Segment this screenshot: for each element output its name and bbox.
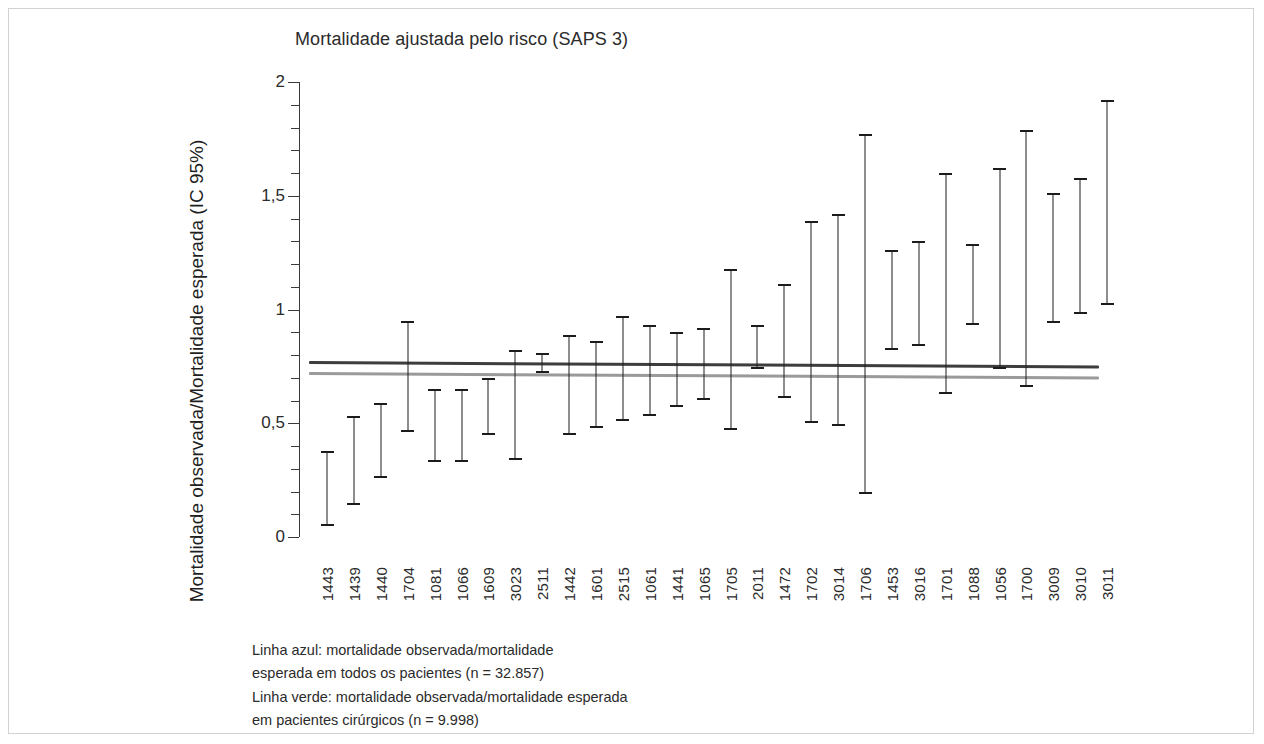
errorbar-cap-lower bbox=[509, 458, 522, 460]
errorbar bbox=[918, 241, 919, 346]
errorbar-cap-lower bbox=[859, 492, 872, 494]
errorbar bbox=[838, 214, 839, 426]
y-axis-minor-tick bbox=[291, 105, 299, 106]
errorbar-cap-upper bbox=[1047, 193, 1060, 195]
errorbar-cap-lower bbox=[536, 371, 549, 373]
x-axis-tick-label: 1704 bbox=[400, 567, 417, 601]
y-axis-tick-label: 1 bbox=[276, 300, 285, 320]
y-axis-major-tick bbox=[288, 196, 299, 197]
errorbar-cap-lower bbox=[1074, 312, 1087, 314]
y-axis-minor-tick bbox=[291, 514, 299, 515]
errorbar-cap-lower bbox=[321, 524, 334, 526]
errorbar bbox=[757, 325, 758, 368]
errorbar bbox=[703, 328, 704, 401]
errorbar bbox=[407, 321, 408, 432]
legend-note: Linha azul: mortalidade observada/mortal… bbox=[252, 639, 628, 733]
x-axis-tick-label: 1066 bbox=[454, 567, 471, 601]
x-axis-tick-label: 1705 bbox=[723, 567, 740, 601]
errorbar-cap-upper bbox=[455, 389, 468, 391]
x-axis-tick-label: 1088 bbox=[965, 567, 982, 601]
errorbar-cap-upper bbox=[778, 284, 791, 286]
errorbar-cap-lower bbox=[1101, 303, 1114, 305]
x-axis-tick-label: 1441 bbox=[669, 567, 686, 601]
errorbar-cap-upper bbox=[643, 325, 656, 327]
y-axis-major-tick bbox=[288, 423, 299, 424]
errorbar-cap-upper bbox=[724, 269, 737, 271]
x-axis-tick-label: 1443 bbox=[319, 567, 336, 601]
y-axis-minor-tick bbox=[291, 264, 299, 265]
errorbar bbox=[811, 221, 812, 423]
errorbar-cap-lower bbox=[401, 430, 414, 432]
errorbar-cap-lower bbox=[1020, 385, 1033, 387]
errorbar-cap-lower bbox=[643, 414, 656, 416]
errorbar bbox=[1107, 100, 1108, 305]
y-axis-major-tick bbox=[288, 310, 299, 311]
y-axis-minor-tick bbox=[291, 378, 299, 379]
errorbar-cap-upper bbox=[832, 214, 845, 216]
y-axis-minor-tick bbox=[291, 128, 299, 129]
x-axis-tick-label: 3011 bbox=[1099, 567, 1116, 600]
errorbar bbox=[488, 378, 489, 435]
x-axis-tick-label: 1601 bbox=[588, 567, 605, 601]
figure-page: Mortalidade ajustada pelo risco (SAPS 3)… bbox=[0, 0, 1264, 744]
errorbar-cap-upper bbox=[563, 335, 576, 337]
errorbar-cap-upper bbox=[401, 321, 414, 323]
errorbar-cap-lower bbox=[778, 396, 791, 398]
errorbar-cap-lower bbox=[455, 460, 468, 462]
errorbar bbox=[622, 316, 623, 421]
y-axis-title: Mortalidade observada/Mortalidade espera… bbox=[185, 140, 231, 603]
y-axis-major-tick bbox=[288, 82, 299, 83]
errorbar-cap-upper bbox=[482, 378, 495, 380]
x-axis-tick-label: 1065 bbox=[696, 567, 713, 601]
y-axis-tick-label: 0 bbox=[276, 527, 285, 547]
errorbar bbox=[1053, 193, 1054, 323]
x-axis-tick-label: 1701 bbox=[938, 567, 955, 601]
x-axis-tick-label: 2011 bbox=[749, 567, 766, 600]
errorbar-cap-lower bbox=[590, 426, 603, 428]
y-axis-tick-label: 0,5 bbox=[261, 413, 285, 433]
x-axis-tick-label: 3010 bbox=[1072, 567, 1089, 601]
errorbar bbox=[461, 389, 462, 462]
errorbar bbox=[515, 350, 516, 459]
errorbar-cap-upper bbox=[616, 316, 629, 318]
errorbar-cap-upper bbox=[347, 416, 360, 418]
errorbar-cap-lower bbox=[885, 348, 898, 350]
x-axis-tick-label: 1439 bbox=[346, 567, 363, 601]
errorbar-cap-lower bbox=[670, 405, 683, 407]
errorbar-cap-lower bbox=[374, 476, 387, 478]
errorbar-cap-upper bbox=[1101, 100, 1114, 102]
errorbar-cap-lower bbox=[347, 503, 360, 505]
errorbar-cap-upper bbox=[939, 173, 952, 175]
errorbar-cap-lower bbox=[832, 424, 845, 426]
x-axis-tick-label: 2511 bbox=[534, 567, 551, 600]
errorbar-cap-upper bbox=[509, 350, 522, 352]
errorbar bbox=[596, 341, 597, 427]
errorbar-cap-lower bbox=[912, 344, 925, 346]
y-axis-tick-label: 1,5 bbox=[261, 186, 285, 206]
errorbar-cap-upper bbox=[859, 134, 872, 136]
errorbar-cap-lower bbox=[993, 367, 1006, 369]
errorbar bbox=[353, 416, 354, 505]
y-axis-minor-tick bbox=[291, 332, 299, 333]
y-axis-major-tick bbox=[288, 537, 299, 538]
y-axis-tick-label: 2 bbox=[276, 72, 285, 92]
y-axis-minor-tick bbox=[291, 241, 299, 242]
errorbar-cap-upper bbox=[885, 250, 898, 252]
errorbar-cap-upper bbox=[805, 221, 818, 223]
errorbar-cap-upper bbox=[428, 389, 441, 391]
errorbar bbox=[945, 173, 946, 394]
errorbar bbox=[327, 451, 328, 526]
errorbar-cap-upper bbox=[321, 451, 334, 453]
x-axis-tick-label: 1056 bbox=[992, 567, 1009, 601]
errorbar-cap-lower bbox=[697, 398, 710, 400]
errorbar bbox=[999, 168, 1000, 368]
errorbar-cap-upper bbox=[590, 341, 603, 343]
errorbar bbox=[1080, 178, 1081, 315]
x-axis-tick-label: 1609 bbox=[480, 567, 497, 601]
y-axis-minor-tick bbox=[291, 401, 299, 402]
errorbar-cap-upper bbox=[993, 168, 1006, 170]
errorbar-cap-upper bbox=[1020, 130, 1033, 132]
errorbar-cap-lower bbox=[939, 392, 952, 394]
x-axis-tick-label: 3023 bbox=[507, 567, 524, 601]
errorbar bbox=[542, 353, 543, 373]
